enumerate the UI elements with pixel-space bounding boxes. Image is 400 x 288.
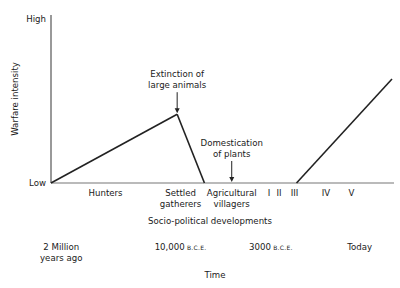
y-tick-label-high: High [26,14,46,24]
time-label: Today [346,242,372,252]
stage-label: II [277,188,282,198]
series-segment [51,114,177,183]
annotation-text: Extinction of [150,69,205,79]
series-layer [51,79,392,183]
time-label: 2 Million [43,242,79,252]
series-segment [297,79,392,183]
stage-label: V [348,188,354,198]
era-suffix: B.C.E. [185,244,207,251]
time-labels-layer: 2 Millionyears ago10,000 B.C.E.3000 B.C.… [40,242,372,263]
annotations-layer: Extinction oflarge animalsDomesticationo… [148,69,263,182]
time-label: 10,000 B.C.E. [155,242,207,252]
x-axis-title: Time [203,270,225,280]
y-axis-title: Warfare intensity [10,62,20,136]
series-segment [177,114,204,183]
stage-label: I [268,188,271,198]
warfare-intensity-chart: High Low Warfare intensity Socio-politic… [0,0,400,288]
stage-label: Hunters [89,188,124,198]
stage-label: villagers [214,199,251,209]
time-label-line2: years ago [40,253,82,263]
stage-label: Agricultural [207,188,257,198]
annotation-text: of plants [213,149,251,159]
annotation: Extinction oflarge animals [148,69,207,113]
annotation-arrowhead-icon [175,108,180,113]
annotation: Domesticationof plants [201,138,263,182]
stage-label: Settled [165,188,196,198]
time-label: 3000 B.C.E. [249,242,293,252]
secondary-x-axis-title: Socio-political developments [148,216,272,226]
stage-label: gatherers [160,199,202,209]
annotation-text: large animals [148,80,207,90]
stage-label: III [291,188,299,198]
stage-label: IV [322,188,331,198]
annotation-text: Domestication [201,138,263,148]
stage-labels-layer: HuntersSettledgatherersAgriculturalvilla… [89,188,355,209]
y-tick-label-low: Low [29,178,46,188]
annotation-arrowhead-icon [229,177,234,182]
era-suffix: B.C.E. [271,244,293,251]
